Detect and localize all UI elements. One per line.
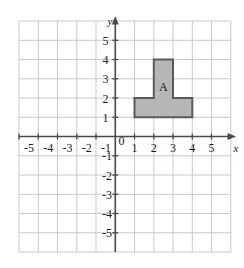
y-tick-label: 1 bbox=[103, 111, 109, 125]
y-tick-label: 2 bbox=[103, 92, 109, 106]
y-tick-label: -1 bbox=[102, 149, 112, 163]
x-tick-label: 1 bbox=[132, 141, 138, 155]
y-axis-label: y bbox=[107, 15, 113, 27]
shape-a-label: A bbox=[159, 80, 168, 94]
x-axis-label: x bbox=[233, 142, 239, 154]
y-tick-label: -4 bbox=[102, 207, 112, 221]
coordinate-plane-figure: -5 -4 -3 -2 -1 1 2 3 4 5 5 4 3 2 1 -1 -2… bbox=[0, 0, 244, 268]
x-tick-label: 4 bbox=[189, 141, 195, 155]
x-tick-label: 2 bbox=[151, 141, 157, 155]
x-tick-label: 3 bbox=[170, 141, 176, 155]
coordinate-plot: -5 -4 -3 -2 -1 1 2 3 4 5 5 4 3 2 1 -1 -2… bbox=[0, 0, 244, 268]
x-tick-label: -3 bbox=[63, 141, 73, 155]
x-tick-label: 5 bbox=[209, 141, 215, 155]
origin-label: 0 bbox=[119, 134, 125, 148]
y-tick-label: -2 bbox=[102, 169, 112, 183]
y-tick-label: 5 bbox=[103, 34, 109, 48]
y-tick-label: 3 bbox=[103, 72, 109, 86]
x-tick-label: -5 bbox=[24, 141, 34, 155]
y-tick-label: -3 bbox=[102, 188, 112, 202]
x-tick-label: -2 bbox=[82, 141, 92, 155]
x-tick-label: -4 bbox=[43, 141, 53, 155]
y-tick-label: -5 bbox=[102, 226, 112, 240]
y-tick-label: 4 bbox=[103, 53, 109, 67]
